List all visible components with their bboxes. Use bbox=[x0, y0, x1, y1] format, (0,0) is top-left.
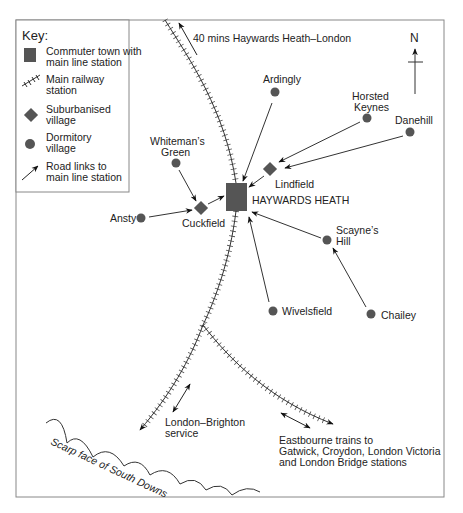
danehill-dot bbox=[406, 128, 415, 137]
ansty-dot bbox=[137, 214, 146, 223]
horsted-keynes-label-2: Keynes bbox=[354, 101, 389, 113]
north-arrow: N bbox=[408, 31, 423, 94]
eastbourne-service-arrow bbox=[281, 413, 310, 428]
cuckfield-label: Cuckfield bbox=[182, 217, 225, 229]
key-square-icon bbox=[24, 48, 36, 62]
lindfield-diamond bbox=[263, 162, 277, 176]
key-label-road-2: main line station bbox=[46, 171, 122, 183]
road-horsted-keynes bbox=[279, 122, 360, 162]
eastbourne-label-3: and London Bridge stations bbox=[279, 456, 407, 468]
road-scaynes-hill bbox=[252, 212, 321, 238]
london-link-label: 40 mins Haywards Heath–London bbox=[193, 32, 351, 44]
danehill-label: Danehill bbox=[395, 114, 433, 126]
key-dot-icon bbox=[25, 139, 35, 149]
whitemans-green-label-2: Green bbox=[161, 146, 190, 158]
key-label-railway-2: station bbox=[46, 84, 77, 96]
brighton-service-arrow bbox=[173, 384, 190, 412]
ansty-label: Ansty bbox=[110, 212, 137, 224]
key-label-dormitory-2: village bbox=[46, 142, 76, 154]
haywards-heath-commuter-map: Key: Commuter town with main line statio… bbox=[0, 0, 463, 513]
road-chailey bbox=[333, 248, 366, 307]
town-label: HAYWARDS HEATH bbox=[252, 194, 349, 206]
chailey-label: Chailey bbox=[381, 309, 417, 321]
wivelsfield-dot bbox=[269, 307, 278, 316]
scarp-label: Scarp face of South Downs bbox=[49, 435, 170, 500]
road-whitemans-green bbox=[179, 170, 196, 201]
road-lindfield bbox=[249, 176, 264, 187]
horsted-keynes-dot bbox=[363, 114, 372, 123]
brighton-service-label-2: service bbox=[165, 427, 198, 439]
haywards-heath-square bbox=[226, 183, 247, 211]
key-label-suburbanised-2: village bbox=[46, 114, 76, 126]
road-cuckfield bbox=[208, 196, 224, 204]
cuckfield-diamond bbox=[194, 201, 208, 215]
road-ansty bbox=[149, 210, 192, 217]
ardingly-dot bbox=[271, 88, 280, 97]
eastbourne-railway-line bbox=[203, 325, 333, 424]
road-danehill bbox=[285, 136, 403, 168]
key-label-commuter-2: main line station bbox=[46, 56, 122, 68]
key-legend: Key: Commuter town with main line statio… bbox=[16, 20, 142, 192]
scaynes-hill-label-2: Hill bbox=[336, 235, 351, 247]
lindfield-label: Lindfield bbox=[275, 178, 314, 190]
ardingly-label: Ardingly bbox=[263, 73, 302, 85]
scaynes-hill-dot bbox=[323, 236, 332, 245]
chailey-dot bbox=[367, 310, 376, 319]
road-wivelsfield bbox=[249, 217, 269, 302]
wivelsfield-label: Wivelsfield bbox=[282, 305, 332, 317]
key-title: Key: bbox=[22, 28, 48, 43]
north-label: N bbox=[410, 31, 419, 45]
whitemans-green-dot bbox=[172, 159, 181, 168]
